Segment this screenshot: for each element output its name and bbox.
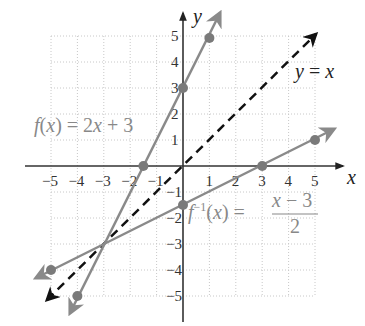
x-tick-label: −5	[42, 173, 58, 189]
y-tick-label: 4	[171, 54, 179, 70]
y-tick-label: 3	[171, 80, 179, 96]
y-tick-label: 1	[171, 132, 179, 148]
x-tick-label: 3	[258, 173, 266, 189]
point-f-neg1.5-0	[138, 161, 148, 171]
point-f-0-3	[178, 83, 188, 93]
x-tick-label: 5	[311, 173, 319, 189]
x-tick-label: −4	[68, 173, 84, 189]
y-tick-label: −4	[166, 262, 182, 278]
x-tick-label: 1	[205, 173, 213, 189]
svg-text:2: 2	[290, 215, 300, 237]
f-inverse-equation-label: f−1(x) = x − 3 2	[188, 189, 318, 237]
point-finv-5-1	[310, 135, 320, 145]
point-finv-neg5-neg4	[46, 265, 56, 275]
x-tick-label: −1	[148, 173, 164, 189]
x-tick-label: 2	[232, 173, 240, 189]
svg-text:f−1(x) =: f−1(x) =	[188, 200, 245, 224]
x-tick-label: −3	[95, 173, 111, 189]
y-tick-label: −3	[166, 236, 182, 252]
svg-text:x − 3: x − 3	[271, 189, 312, 211]
inverse-function-chart: x y −5−4−3−2−11234554321−1−2−3−4−5 f(x) …	[0, 0, 365, 326]
identity-line	[47, 34, 316, 300]
y-tick-label: 5	[171, 28, 179, 44]
x-axis-label: x	[346, 166, 356, 188]
y-axis-label: y	[191, 5, 202, 28]
y-tick-label: −5	[166, 288, 182, 304]
f-equation-label: f(x) = 2x + 3	[34, 114, 133, 137]
point-f-neg4-neg5	[72, 291, 82, 301]
point-finv-3-0	[257, 161, 267, 171]
x-tick-label: 4	[285, 173, 293, 189]
identity-equation-label: y = x	[293, 60, 334, 83]
point-f-1-5	[204, 33, 214, 43]
point-finv-0-neg1.5	[178, 200, 188, 210]
y-tick-label: −1	[166, 184, 182, 200]
